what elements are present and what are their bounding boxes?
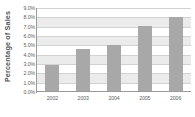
y-tick-label: 0.0% bbox=[24, 89, 35, 95]
x-tick-label: 2006 bbox=[170, 95, 181, 101]
bar bbox=[169, 17, 183, 92]
y-tick-label: 2.0% bbox=[24, 70, 35, 76]
x-axis-tick-labels: 20022003200420052006 bbox=[37, 95, 191, 107]
bar bbox=[45, 65, 59, 92]
y-tick-label: 6.0% bbox=[24, 33, 35, 39]
x-axis-line bbox=[37, 91, 191, 92]
bar bbox=[138, 26, 152, 92]
gridline bbox=[37, 8, 191, 9]
y-axis-title-label: Percentage of Sales bbox=[4, 10, 13, 81]
x-tick-label: 2002 bbox=[47, 95, 58, 101]
y-axis-line bbox=[36, 8, 37, 93]
bar bbox=[76, 49, 90, 92]
plot-area bbox=[37, 8, 191, 92]
y-tick-label: 7.0% bbox=[24, 24, 35, 30]
y-axis-tick-labels: 0.0%1.0%2.0%3.0%4.0%5.0%6.0%7.0%8.0%9.0% bbox=[14, 8, 36, 92]
bar-chart: Percentage of Sales 0.0%1.0%2.0%3.0%4.0%… bbox=[0, 0, 195, 117]
x-tick-label: 2003 bbox=[78, 95, 89, 101]
bar bbox=[107, 45, 121, 92]
x-tick-label: 2004 bbox=[108, 95, 119, 101]
y-tick-label: 9.0% bbox=[24, 5, 35, 11]
y-tick-label: 1.0% bbox=[24, 80, 35, 86]
y-tick-label: 4.0% bbox=[24, 52, 35, 58]
y-tick-label: 5.0% bbox=[24, 42, 35, 48]
y-tick-label: 8.0% bbox=[24, 14, 35, 20]
y-tick-label: 3.0% bbox=[24, 61, 35, 67]
x-tick-label: 2005 bbox=[139, 95, 150, 101]
